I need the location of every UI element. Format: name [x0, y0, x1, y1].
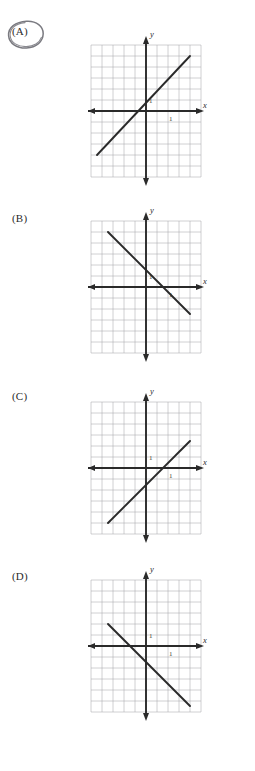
graph-a-svg: y x 1 1 [86, 28, 210, 186]
x-tick-label-d: 1 [169, 650, 173, 658]
y-axis-label-c: y [149, 386, 154, 396]
graph-d-svg: y x 1 1 [86, 563, 210, 721]
choice-label-a: (A) [12, 25, 28, 37]
y-tick-label-d: 1 [149, 632, 153, 640]
y-axis-label-b: y [149, 205, 154, 215]
x-axis-label-b: x [202, 276, 207, 286]
multiple-choice-question-sheet: (A) [0, 0, 255, 771]
choice-label-d: (D) [12, 570, 28, 582]
graph-b: y x 1 1 [86, 204, 210, 362]
graph-c: y x 1 1 [86, 385, 210, 543]
y-axis-label-d: y [149, 564, 154, 574]
x-axis-label-a: x [202, 100, 207, 110]
choice-label-b: (B) [12, 212, 27, 224]
y-tick-label-c: 1 [149, 454, 153, 462]
y-axis-label-a: y [149, 29, 154, 39]
x-axis-label-d: x [202, 635, 207, 645]
graph-a: y x 1 1 [86, 28, 210, 186]
choice-block-a[interactable]: (A) [0, 18, 255, 196]
x-tick-label-a: 1 [169, 115, 173, 123]
x-tick-label-c: 1 [169, 472, 173, 480]
x-axis-label-c: x [202, 457, 207, 467]
choice-block-c[interactable]: (C) [0, 378, 255, 558]
graph-d: y x 1 1 [86, 563, 210, 721]
choice-block-d[interactable]: (D) [0, 558, 255, 738]
choice-block-b[interactable]: (B) [0, 200, 255, 378]
choice-label-c: (C) [12, 390, 27, 402]
graph-b-svg: y x 1 1 [86, 204, 210, 362]
graph-c-svg: y x 1 1 [86, 385, 210, 543]
